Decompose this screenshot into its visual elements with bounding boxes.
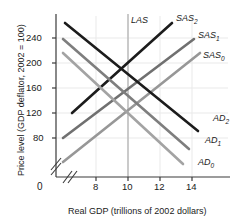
x-tick-label-12: 12 (154, 182, 165, 192)
curve-label-sas1-text: SAS (198, 30, 216, 40)
x-tick-label-14: 14 (186, 182, 197, 192)
y-tick-label-160: 160 (26, 83, 42, 93)
curve-label-ad1-sub: 1 (218, 140, 222, 147)
x-axis-ticks (96, 177, 192, 181)
curve-label-ad2: AD2 (213, 114, 229, 125)
origin-label: 0 (37, 182, 43, 192)
curve-label-sas2-sub: 2 (194, 18, 198, 25)
curve-label-sas0-sub: 0 (221, 55, 225, 62)
curve-label-sas2-text: SAS (176, 13, 194, 23)
curve-label-ad0: AD0 (198, 158, 214, 169)
curve-label-las-text: LAS (131, 15, 148, 25)
curve-label-sas0: SAS0 (203, 51, 225, 62)
y-axis-title: Price level (GDP deflator, 2002 = 100) (16, 26, 26, 176)
x-tick-label-10: 10 (122, 182, 133, 192)
curve-label-ad2-sub: 2 (226, 118, 230, 125)
x-tick-label-8: 8 (93, 182, 98, 192)
curve-sas0 (63, 53, 200, 162)
curve-label-ad2-text: AD (213, 113, 226, 123)
curve-label-sas2: SAS2 (176, 14, 198, 25)
curve-label-ad0-sub: 0 (211, 162, 215, 169)
x-axis-title: Real GDP (trillions of 2002 dollars) (68, 206, 206, 216)
y-tick-label-120: 120 (26, 108, 42, 118)
curve-label-sas1-sub: 1 (216, 35, 220, 42)
curve-label-ad0-text: AD (198, 157, 211, 167)
curve-label-las: LAS (131, 16, 148, 25)
y-tick-label-80: 80 (33, 133, 44, 143)
curve-label-ad1-text: AD (205, 135, 218, 145)
curve-label-ad1: AD1 (205, 136, 221, 147)
y-tick-label-240: 240 (26, 33, 42, 43)
y-tick-label-200: 200 (26, 58, 42, 68)
aggregate-supply-demand-chart: 240 200 160 120 80 0 8 10 12 14 Real GDP… (0, 0, 252, 223)
curve-label-sas1: SAS1 (198, 31, 220, 42)
curve-label-sas0-text: SAS (203, 50, 221, 60)
